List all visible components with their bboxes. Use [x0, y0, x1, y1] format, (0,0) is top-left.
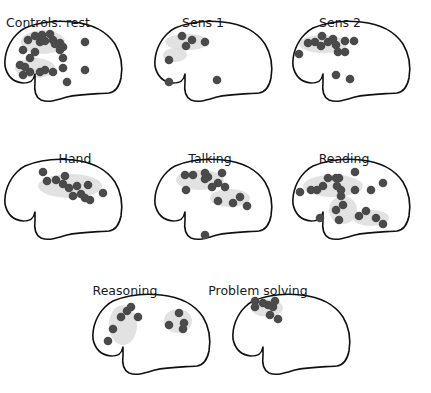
panel-sens-1: Sens 1: [155, 15, 272, 101]
activation-dot: [266, 311, 275, 320]
activation-dot: [243, 202, 252, 211]
activation-dot: [295, 50, 304, 59]
activation-dot: [51, 40, 60, 49]
activation-dot: [346, 75, 355, 84]
panel-controls-rest: Controls: rest: [5, 15, 122, 101]
activation-dot: [134, 313, 143, 322]
activation-dot: [208, 183, 217, 192]
activation-dot: [175, 309, 184, 318]
activation-dot: [84, 181, 93, 190]
activation-dot: [335, 174, 344, 183]
activation-dot: [341, 37, 350, 46]
activation-dot: [189, 171, 198, 180]
panel-problem-solving: Problem solving: [208, 283, 349, 374]
panel-label: Sens 2: [319, 15, 361, 30]
panel-label: Problem solving: [208, 283, 307, 298]
activation-dot: [229, 199, 238, 208]
brain-outline-icon: [293, 21, 410, 101]
activation-dot: [351, 168, 360, 177]
activation-dot: [69, 192, 78, 201]
activation-dot: [41, 66, 50, 75]
activation-dot: [379, 220, 388, 229]
activation-dot: [362, 207, 371, 216]
brain-activation-figure: Controls: restSens 1Sens 2HandTalkingRea…: [0, 0, 431, 393]
activation-dot: [165, 78, 174, 87]
activation-dot: [335, 216, 344, 225]
activation-dot: [81, 38, 90, 47]
activation-dot: [61, 172, 70, 181]
activation-dot: [332, 71, 341, 80]
panel-hand: Hand: [5, 151, 122, 239]
activation-dot: [271, 297, 280, 306]
activation-dot: [355, 212, 364, 221]
activation-dot: [127, 303, 136, 312]
brain-outline-icon: [93, 294, 210, 374]
activation-dot: [251, 303, 260, 312]
panel-label: Reasoning: [93, 283, 158, 298]
brain-outline-icon: [5, 159, 122, 239]
activation-dot: [26, 68, 35, 77]
activation-dot: [179, 325, 188, 334]
panel-reasoning: Reasoning: [93, 283, 210, 374]
activation-dot: [319, 182, 328, 191]
activation-dot: [372, 214, 381, 223]
activation-dot: [81, 66, 90, 75]
activation-dot: [41, 37, 50, 46]
activation-dot: [165, 56, 174, 65]
activation-dot: [181, 171, 190, 180]
panel-talking: Talking: [155, 151, 272, 239]
activation-dot: [339, 201, 348, 210]
activation-dot: [178, 32, 187, 41]
activation-dot: [201, 175, 210, 184]
panel-label: Hand: [59, 151, 92, 166]
panel-reading: Reading: [293, 151, 410, 239]
activation-dot: [39, 168, 48, 177]
activation-dot: [26, 54, 35, 63]
activation-dot: [379, 179, 388, 188]
panels-group: Controls: restSens 1Sens 2HandTalkingRea…: [5, 15, 410, 374]
activation-dot: [99, 189, 108, 198]
activation-dot: [86, 196, 95, 205]
activation-dot: [236, 193, 245, 202]
brain-outline-icon: [233, 294, 350, 374]
activation-dot: [182, 186, 191, 195]
activation-dot: [165, 321, 174, 330]
activation-dot: [214, 197, 223, 206]
activation-dot: [341, 48, 350, 57]
activation-dot: [367, 186, 376, 195]
activation-dot: [63, 78, 72, 87]
panel-label: Sens 1: [182, 15, 224, 30]
activation-dot: [117, 313, 126, 322]
panel-label: Talking: [187, 151, 231, 166]
activation-dot: [201, 38, 210, 47]
activation-dot: [316, 214, 325, 223]
activation-dot: [351, 186, 360, 195]
activation-dot: [109, 325, 118, 334]
activation-dot: [65, 184, 74, 193]
activation-dot: [296, 188, 305, 197]
activation-dot: [19, 46, 28, 55]
activation-dot: [49, 68, 58, 77]
activation-dot: [337, 192, 346, 201]
activation-dot: [43, 177, 52, 186]
activation-dot: [73, 182, 82, 191]
activation-dot: [324, 174, 333, 183]
activation-dot: [350, 37, 359, 46]
activation-dot: [59, 64, 68, 73]
panel-label: Reading: [319, 151, 370, 166]
activation-dot: [188, 36, 197, 45]
activation-dot: [218, 169, 227, 178]
activation-dot: [213, 76, 222, 85]
activation-dot: [274, 315, 283, 324]
panel-sens-2: Sens 2: [293, 15, 410, 101]
activation-dot: [59, 54, 68, 63]
activation-dot: [332, 206, 341, 215]
activation-dot: [221, 183, 230, 192]
activation-dot: [104, 337, 113, 346]
activation-dot: [201, 231, 210, 240]
